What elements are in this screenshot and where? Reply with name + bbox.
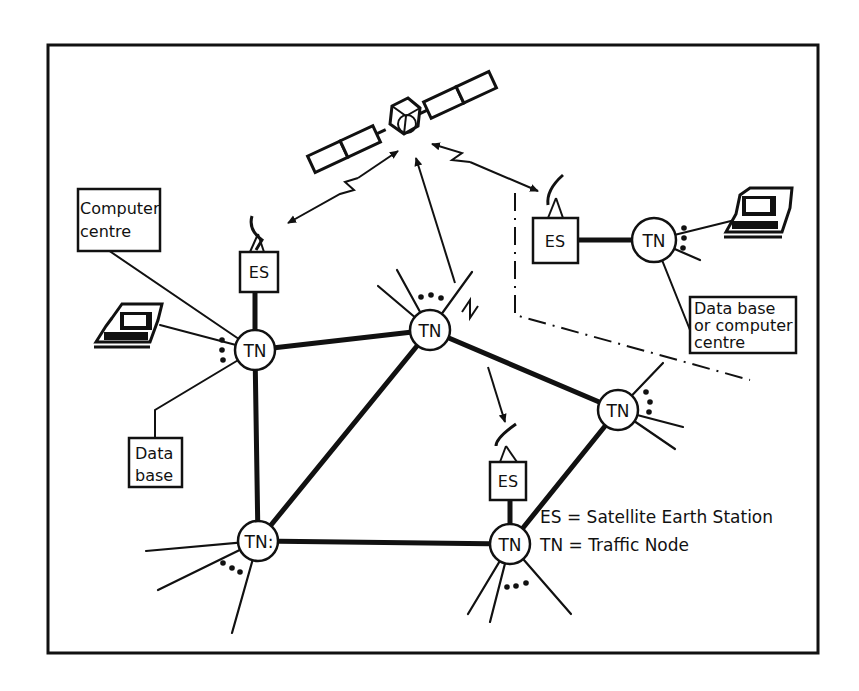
traffic-node-remote: TN bbox=[632, 218, 676, 262]
earth-station-bottom: ES bbox=[490, 462, 526, 500]
svg-text:TN: TN bbox=[641, 231, 665, 251]
legend-tn: TN = Traffic Node bbox=[539, 535, 689, 555]
computer-terminal-icon bbox=[724, 188, 792, 237]
svg-text:ES: ES bbox=[545, 232, 565, 251]
traffic-node-bottom-left: TN: bbox=[238, 521, 278, 561]
traffic-node-bottom-right: TN bbox=[490, 524, 530, 564]
computer-terminal-icon bbox=[94, 304, 162, 347]
legend-es: ES = Satellite Earth Station bbox=[540, 507, 773, 527]
dish-antenna-icon bbox=[548, 175, 563, 218]
svg-text:Data: Data bbox=[135, 444, 173, 463]
svg-text:TN: TN bbox=[242, 341, 266, 361]
link-center-bottomleft bbox=[258, 330, 430, 541]
svg-text:TN: TN bbox=[417, 321, 441, 341]
svg-text:TN: TN bbox=[497, 535, 521, 555]
earth-station-left: ES bbox=[240, 252, 278, 292]
svg-text:base: base bbox=[135, 466, 173, 485]
link-bottomleft-bottomright bbox=[258, 541, 510, 544]
svg-text:TN:: TN: bbox=[244, 532, 274, 552]
dish-antenna-icon bbox=[250, 216, 264, 252]
uplink-center bbox=[416, 158, 455, 283]
traffic-node-left: TN bbox=[235, 330, 275, 370]
link-center-rightupper bbox=[430, 330, 618, 410]
tn-bottomleft-spokes bbox=[146, 541, 258, 633]
svg-text:ES: ES bbox=[249, 263, 269, 282]
computer-centre-box: Computer centre bbox=[78, 189, 160, 251]
satellite-icon bbox=[308, 72, 497, 173]
traffic-node-right-upper: TN bbox=[598, 390, 638, 430]
svg-text:ES: ES bbox=[498, 472, 518, 491]
svg-text:centre: centre bbox=[80, 222, 131, 241]
radio-link-left bbox=[288, 151, 398, 223]
data-base-box: Data base bbox=[129, 438, 182, 487]
telecom-network-diagram: ES ES ES Computer centre Data base Data … bbox=[0, 0, 859, 691]
link-left-center bbox=[255, 330, 430, 350]
svg-text:centre: centre bbox=[694, 333, 745, 352]
svg-text:TN: TN bbox=[605, 401, 629, 421]
dish-antenna-icon bbox=[496, 424, 517, 462]
traffic-node-center: TN bbox=[410, 310, 450, 350]
remote-database-box: Data base or computer centre bbox=[690, 297, 796, 353]
legend: ES = Satellite Earth Station TN = Traffi… bbox=[539, 507, 773, 555]
earth-station-remote: ES bbox=[533, 218, 578, 263]
svg-text:Computer: Computer bbox=[80, 199, 160, 218]
link-left-bottomleft bbox=[255, 350, 258, 541]
radio-link-right bbox=[432, 144, 538, 191]
